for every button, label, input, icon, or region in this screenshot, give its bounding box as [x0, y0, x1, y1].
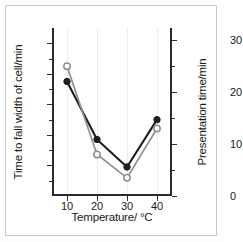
right-minor-tick-5	[172, 170, 175, 171]
series-plot	[52, 28, 172, 196]
data-point-open-circle-30	[124, 175, 130, 181]
right-axis-title-text: Presentation time/min	[195, 58, 207, 165]
data-point-open-circle-20	[94, 151, 100, 157]
left-axis-title: Time to fall width of cell/min	[10, 28, 26, 196]
left-axis-title-text: Time to fall width of cell/min	[12, 45, 24, 180]
data-point-filled-circle-30	[124, 164, 130, 170]
right-minor-tick-15	[172, 118, 175, 119]
x-tick-label-30: 30	[121, 200, 133, 212]
right-axis-title: Presentation time/min	[193, 28, 209, 196]
data-point-filled-circle-40	[154, 116, 160, 122]
data-point-open-circle-40	[154, 125, 160, 131]
right-tick-mark-0	[172, 196, 177, 197]
plot-area: 10080604020 3020100 10203040	[52, 28, 172, 196]
figure: Time to fall width of cell/min Presentat…	[0, 0, 224, 242]
data-point-filled-circle-10	[64, 78, 70, 84]
right-tick-mark-20	[172, 92, 177, 93]
x-tick-label-40: 40	[151, 200, 163, 212]
data-point-filled-circle-20	[94, 136, 100, 142]
right-minor-tick-25	[172, 66, 175, 67]
data-point-open-circle-10	[64, 63, 70, 69]
x-tick-label-20: 20	[91, 200, 103, 212]
series-line-1	[67, 66, 157, 178]
x-axis-title: Temperature/ °C	[52, 211, 172, 223]
right-tick-mark-10	[172, 144, 177, 145]
right-tick-mark-30	[172, 40, 177, 41]
x-tick-label-10: 10	[61, 200, 73, 212]
series-line-0	[67, 81, 157, 167]
